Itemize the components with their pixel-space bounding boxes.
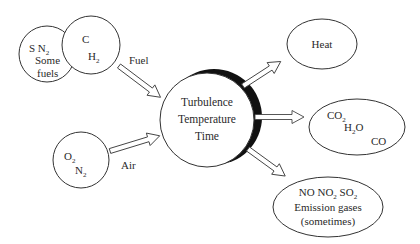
co2-label: CO (327, 109, 342, 121)
fuel-main-h: H (88, 50, 96, 62)
fuel-other-fuels: fuels (37, 67, 58, 79)
fuel-main-c: C (82, 33, 89, 45)
products-arrow (255, 111, 304, 124)
emission-gases-label: Emission gases (294, 201, 362, 213)
fuel-main-node: C H2 (62, 16, 120, 74)
co-label: CO (371, 135, 386, 147)
fuel-label: Fuel (129, 54, 149, 66)
no2-label: NO (317, 186, 333, 198)
air-circle (53, 132, 109, 188)
air-arrow (108, 130, 162, 158)
air-n: N (75, 164, 83, 176)
emissions-arrow (244, 144, 289, 182)
fuel-main-circle (62, 16, 120, 74)
no-label: NO (299, 186, 315, 198)
air-node: O2 N2 (53, 132, 109, 188)
air-o: O (64, 150, 72, 162)
combustion-diagram: S N2 Some fuels C H2 Fuel O2 N2 Air Turb… (0, 0, 420, 244)
fuel-arrow (115, 61, 164, 103)
center-temperature: Temperature (178, 113, 236, 126)
center-time: Time (195, 130, 219, 142)
air-label: Air (121, 159, 136, 171)
heat-node: Heat (287, 19, 357, 69)
h2o-label: H (344, 121, 352, 133)
fuel-other-s-n: S N (29, 42, 46, 54)
sometimes-label: (sometimes) (301, 215, 356, 228)
fuel-other-some: Some (35, 54, 60, 66)
heat-arrow (239, 56, 284, 91)
so2-label: SO (340, 186, 354, 198)
center-turbulence: Turbulence (181, 96, 233, 108)
emissions-node: NO NO2 SO2 Emission gases (sometimes) (273, 177, 383, 237)
products-node: CO2 H2O CO (309, 99, 405, 155)
heat-label: Heat (312, 38, 333, 50)
